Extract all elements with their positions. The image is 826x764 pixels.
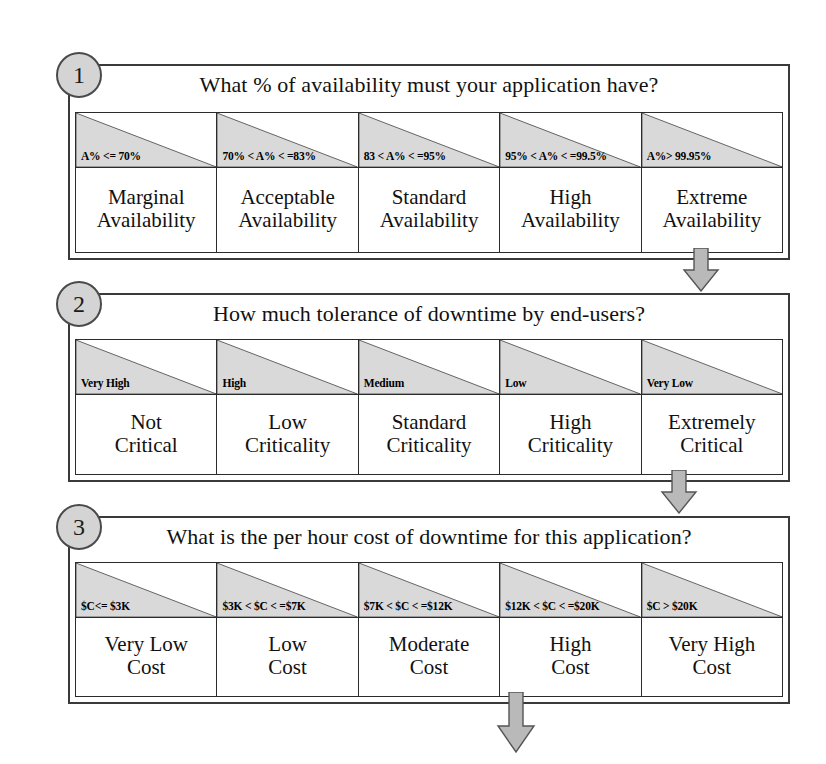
step-badge-2: 2 [56, 281, 102, 327]
category-label: Not Critical [76, 395, 216, 474]
column-acceptable-availability[interactable]: 70% < A% < =83% Acceptable Availability [217, 113, 358, 252]
category-label: Very Low Cost [76, 618, 216, 696]
range-cell: $12K < $C < =$20K [500, 563, 640, 618]
section-1-question: What % of availability must your applica… [70, 66, 788, 101]
section-3-matrix: $C<= $3K Very Low Cost $3K < $C < =$7K L… [75, 562, 783, 697]
range-cell: Low [500, 340, 640, 395]
range-label: Low [505, 377, 526, 389]
range-label: $3K < $C < =$7K [222, 600, 305, 612]
range-cell: A%> 99.95% [642, 113, 782, 168]
column-not-critical[interactable]: Very High Not Critical [76, 340, 217, 474]
range-label: A% <= 70% [81, 150, 141, 162]
range-label: High [222, 377, 246, 389]
range-label: Very Low [647, 377, 693, 389]
range-cell: $7K < $C < =$12K [359, 563, 499, 618]
section-2-question: How much tolerance of downtime by end-us… [70, 295, 788, 330]
arrow-section1-to-section2 [682, 248, 720, 292]
range-cell: $C<= $3K [76, 563, 216, 618]
column-extreme-availability[interactable]: A%> 99.95% Extreme Availability [642, 113, 782, 252]
section-1-matrix: A% <= 70% Marginal Availability 70% < A%… [75, 112, 783, 253]
range-label: $7K < $C < =$12K [364, 600, 453, 612]
range-label: A%> 99.95% [647, 150, 712, 162]
section-downtime-tolerance: How much tolerance of downtime by end-us… [68, 293, 790, 482]
section-downtime-cost: What is the per hour cost of downtime fo… [68, 516, 790, 704]
range-label: Very High [81, 377, 130, 389]
range-cell: A% <= 70% [76, 113, 216, 168]
range-cell: 70% < A% < =83% [217, 113, 357, 168]
column-low-criticality[interactable]: High Low Criticality [217, 340, 358, 474]
category-label: Low Criticality [217, 395, 357, 474]
category-label: High Criticality [500, 395, 640, 474]
range-label: 83 < A% < =95% [364, 150, 446, 162]
category-label: Standard Availability [359, 168, 499, 252]
column-very-low-cost[interactable]: $C<= $3K Very Low Cost [76, 563, 217, 696]
column-marginal-availability[interactable]: A% <= 70% Marginal Availability [76, 113, 217, 252]
range-cell: $C > $20K [642, 563, 782, 618]
range-cell: Very Low [642, 340, 782, 395]
arrow-section3-output [496, 692, 536, 754]
section-2-matrix: Very High Not Critical High Low Critical… [75, 339, 783, 475]
column-very-high-cost[interactable]: $C > $20K Very High Cost [642, 563, 782, 696]
range-label: 70% < A% < =83% [222, 150, 315, 162]
range-cell: $3K < $C < =$7K [217, 563, 357, 618]
range-label: Medium [364, 377, 404, 389]
category-label: Very High Cost [642, 618, 782, 696]
section-availability: What % of availability must your applica… [68, 64, 790, 260]
diagram-canvas: What % of availability must your applica… [0, 0, 826, 764]
range-label: 95% < A% < =99.5% [505, 150, 607, 162]
column-high-availability[interactable]: 95% < A% < =99.5% High Availability [500, 113, 641, 252]
column-high-cost[interactable]: $12K < $C < =$20K High Cost [500, 563, 641, 696]
range-label: $C<= $3K [81, 600, 130, 612]
step-badge-1: 1 [56, 52, 102, 98]
category-label: Extreme Availability [642, 168, 782, 252]
arrow-section2-to-section3 [660, 470, 698, 514]
category-label: Standard Criticality [359, 395, 499, 474]
range-cell: High [217, 340, 357, 395]
category-label: Marginal Availability [76, 168, 216, 252]
column-extremely-critical[interactable]: Very Low Extremely Critical [642, 340, 782, 474]
step-badge-3: 3 [56, 504, 102, 550]
section-3-question: What is the per hour cost of downtime fo… [70, 518, 788, 553]
category-label: Low Cost [217, 618, 357, 696]
category-label: High Cost [500, 618, 640, 696]
column-standard-criticality[interactable]: Medium Standard Criticality [359, 340, 500, 474]
column-high-criticality[interactable]: Low High Criticality [500, 340, 641, 474]
category-label: High Availability [500, 168, 640, 252]
range-cell: Medium [359, 340, 499, 395]
range-cell: 95% < A% < =99.5% [500, 113, 640, 168]
column-standard-availability[interactable]: 83 < A% < =95% Standard Availability [359, 113, 500, 252]
range-cell: 83 < A% < =95% [359, 113, 499, 168]
column-moderate-cost[interactable]: $7K < $C < =$12K Moderate Cost [359, 563, 500, 696]
range-cell: Very High [76, 340, 216, 395]
column-low-cost[interactable]: $3K < $C < =$7K Low Cost [217, 563, 358, 696]
range-label: $C > $20K [647, 600, 698, 612]
category-label: Extremely Critical [642, 395, 782, 474]
category-label: Acceptable Availability [217, 168, 357, 252]
category-label: Moderate Cost [359, 618, 499, 696]
range-label: $12K < $C < =$20K [505, 600, 599, 612]
